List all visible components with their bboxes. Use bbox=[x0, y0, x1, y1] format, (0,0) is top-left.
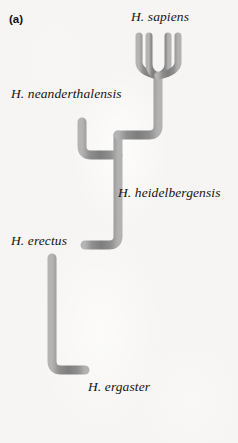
taxon-label-erectus: H. erectus bbox=[11, 233, 67, 249]
panel-letter: (a) bbox=[9, 13, 23, 25]
sapiens-fan bbox=[139, 34, 178, 76]
branch-neanderthalensis bbox=[82, 122, 118, 155]
phylogeny-figure: (a) H. sapiens H. neanderthalensis H. he… bbox=[0, 0, 238, 443]
branch-sapiens-stem bbox=[118, 76, 158, 135]
taxon-label-sapiens: H. sapiens bbox=[131, 9, 189, 25]
taxon-label-heidelbergensis: H. heidelbergensis bbox=[118, 185, 221, 201]
taxon-label-neanderthalensis: H. neanderthalensis bbox=[11, 86, 122, 102]
taxon-label-ergaster: H. ergaster bbox=[88, 379, 150, 395]
cladogram-tree bbox=[0, 0, 238, 443]
branch-erectus bbox=[52, 258, 85, 370]
